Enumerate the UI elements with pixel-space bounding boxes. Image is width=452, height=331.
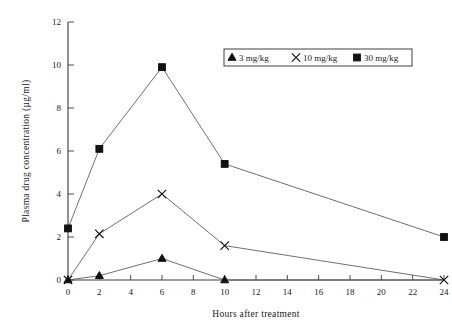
square-marker-icon [65,225,72,232]
legend-label: 30 mg/kg [364,53,399,63]
y-axis-tick-label: 2 [57,232,62,242]
square-marker-icon [221,161,228,168]
x-axis-tick-label: 8 [191,287,196,297]
triangle-marker-icon [158,254,166,261]
cross-marker-icon [220,241,228,249]
cross-marker-icon [95,230,103,238]
x-axis-tick-label: 6 [160,287,165,297]
square-marker-icon [96,145,103,152]
y-axis-title: Plasma drug concentration (µg/ml) [21,80,32,223]
y-axis-tick-label: 8 [57,103,62,113]
legend-label: 10 mg/kg [303,53,338,63]
square-marker-icon [354,54,361,61]
x-axis-tick-label: 22 [408,287,417,297]
y-axis-tick-label: 12 [52,17,61,27]
x-axis-tick-label: 14 [283,287,293,297]
series-line [68,67,444,237]
x-axis-title: Hours after treatment [212,309,300,319]
x-axis-tick-label: 18 [346,287,356,297]
x-axis-tick-label: 10 [220,287,230,297]
cross-marker-icon [158,190,166,198]
chart-canvas: 024681012141618202224Hours after treatme… [0,0,452,331]
y-axis-tick-label: 10 [52,60,62,70]
x-axis-tick-label: 20 [377,287,387,297]
y-axis-tick-label: 0 [57,275,62,285]
x-axis-tick-label: 0 [66,287,71,297]
square-marker-icon [159,64,166,71]
x-axis-tick-label: 24 [440,287,450,297]
plasma-concentration-chart: 024681012141618202224Hours after treatme… [0,0,452,331]
x-axis-tick-label: 16 [314,287,324,297]
series-3-mg-kg [64,254,444,282]
x-axis-tick-label: 12 [252,287,261,297]
y-axis-tick-label: 6 [57,146,62,156]
legend-label: 3 mg/kg [239,53,269,63]
square-marker-icon [441,234,448,241]
y-axis-tick-label: 4 [57,189,62,199]
series-line [68,194,444,280]
legend: 3 mg/kg10 mg/kg30 mg/kg [228,53,399,63]
x-axis-tick-label: 4 [128,287,133,297]
series-30-mg-kg [65,64,448,241]
x-axis-tick-label: 2 [97,287,102,297]
